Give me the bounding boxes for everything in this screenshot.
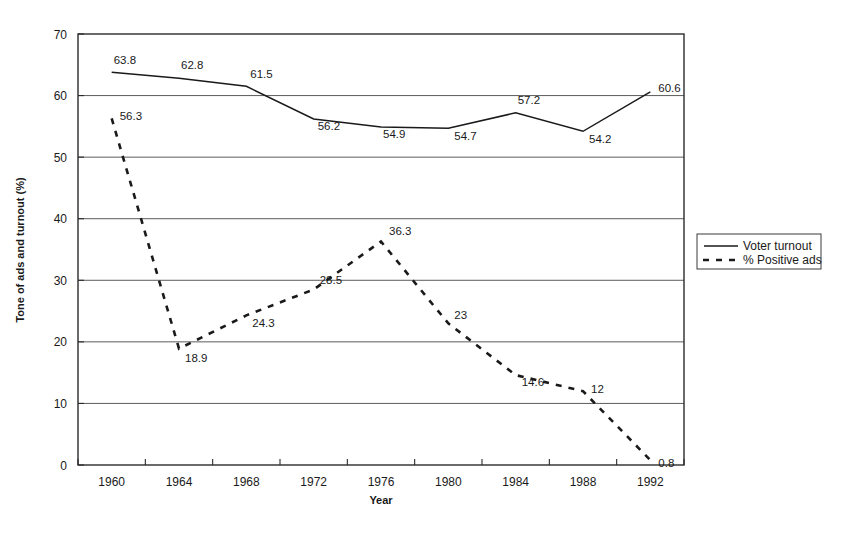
chart-container: Tone of ads and turnout (%) 010203040506… <box>0 0 854 536</box>
y-axis-tick-label: 10 <box>54 397 68 411</box>
y-axis-tick-label: 0 <box>60 459 67 473</box>
x-axis-title: Year <box>369 494 393 506</box>
data-label: 63.8 <box>114 54 136 66</box>
y-axis-tick-label: 30 <box>54 274 68 288</box>
y-axis-tick-label: 70 <box>54 28 68 42</box>
x-axis-tick-labels: 196019641968197219761980198419881992 <box>98 475 664 489</box>
x-axis-tick-label: 1964 <box>166 475 193 489</box>
y-axis-tick-label: 20 <box>54 335 68 349</box>
data-label: 24.3 <box>252 317 274 329</box>
x-axis-tick-label: 1960 <box>98 475 125 489</box>
x-axis-tickmarks <box>78 459 684 465</box>
legend-label-positive-ads: % Positive ads <box>743 253 822 267</box>
series-line-1 <box>112 72 651 131</box>
data-label: 18.9 <box>185 352 207 364</box>
data-label: 62.8 <box>181 59 203 71</box>
y-axis-tickmarks <box>78 34 84 465</box>
series-lines <box>112 72 651 460</box>
y-axis-tick-label: 60 <box>54 89 68 103</box>
x-axis-tick-label: 1988 <box>570 475 597 489</box>
data-label: 60.6 <box>658 82 680 94</box>
legend-label-voter-turnout: Voter turnout <box>743 239 812 253</box>
data-label: 23 <box>454 309 467 321</box>
x-axis-tick-label: 1976 <box>368 475 395 489</box>
series-line-2 <box>112 118 651 460</box>
data-label: 54.9 <box>383 128 405 140</box>
y-axis-title: Tone of ads and turnout (%) <box>14 177 26 323</box>
data-label: 14.6 <box>522 376 544 388</box>
data-label: 57.2 <box>518 94 540 106</box>
data-label: 36.3 <box>389 225 411 237</box>
data-label: 0.8 <box>658 457 674 469</box>
data-label: 28.5 <box>320 274 342 286</box>
x-axis-tick-label: 1968 <box>233 475 260 489</box>
y-axis-tick-labels: 010203040506070 <box>54 28 68 473</box>
y-axis-tick-label: 50 <box>54 151 68 165</box>
x-axis-tick-label: 1992 <box>637 475 664 489</box>
x-axis-tick-label: 1984 <box>502 475 529 489</box>
data-label: 56.2 <box>318 120 340 132</box>
y-axis-title-group: Tone of ads and turnout (%) <box>14 177 26 323</box>
data-label: 54.2 <box>589 133 611 145</box>
data-label: 54.7 <box>454 130 476 142</box>
x-axis-tick-label: 1972 <box>300 475 327 489</box>
data-label: 61.5 <box>250 68 272 80</box>
x-axis-tick-label: 1980 <box>435 475 462 489</box>
line-chart: Tone of ads and turnout (%) 010203040506… <box>0 0 854 536</box>
data-label: 56.3 <box>120 110 142 122</box>
legend: Voter turnout % Positive ads <box>697 234 822 269</box>
data-label: 12 <box>591 383 604 395</box>
y-axis-tick-label: 40 <box>54 212 68 226</box>
